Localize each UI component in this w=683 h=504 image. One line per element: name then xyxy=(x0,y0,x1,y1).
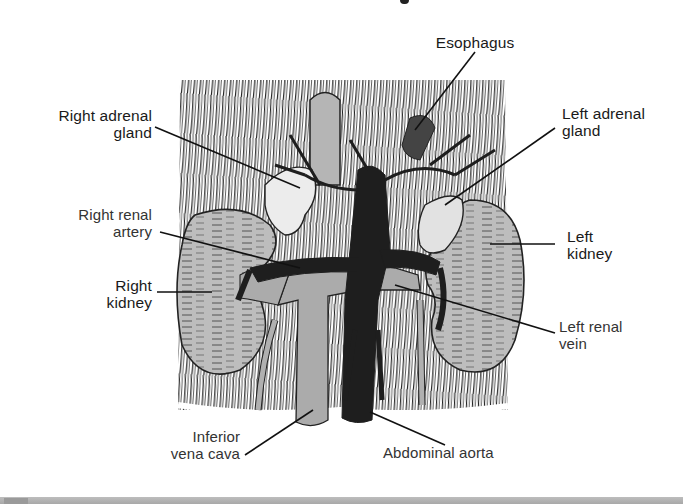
label-right-kidney: Right kidney xyxy=(60,277,152,311)
label-left-adrenal-gland-line2: gland xyxy=(562,122,682,139)
label-left-kidney: Left kidney xyxy=(567,228,647,262)
label-left-renal-vein-line2: vein xyxy=(559,335,669,352)
label-right-renal-artery: Right renal artery xyxy=(40,206,152,240)
label-right-kidney-line1: Right xyxy=(60,277,152,294)
label-abdominal-aorta-line1: Abdominal aorta xyxy=(383,444,533,461)
label-inferior-vena-cava-line2: vena cava xyxy=(140,445,240,462)
label-right-kidney-line2: kidney xyxy=(60,294,152,311)
label-right-adrenal-gland-line2: gland xyxy=(30,124,152,141)
label-right-adrenal-gland: Right adrenal gland xyxy=(30,107,152,141)
label-left-kidney-line2: kidney xyxy=(567,245,647,262)
label-abdominal-aorta: Abdominal aorta xyxy=(383,444,533,461)
bottom-gray-bar xyxy=(0,497,683,504)
leader-inferior-vena-cava xyxy=(245,410,313,455)
label-esophagus-line1: Esophagus xyxy=(425,34,525,51)
anatomy-figure: Esophagus Right adrenal gland Left adren… xyxy=(0,0,683,504)
label-esophagus: Esophagus xyxy=(425,34,525,51)
bottom-bar-tab xyxy=(4,498,28,504)
label-left-renal-vein-line1: Left renal xyxy=(559,318,669,335)
label-inferior-vena-cava: Inferior vena cava xyxy=(140,428,240,462)
label-inferior-vena-cava-line1: Inferior xyxy=(140,428,240,445)
label-left-renal-vein: Left renal vein xyxy=(559,318,669,352)
label-left-kidney-line1: Left xyxy=(567,228,647,245)
label-right-adrenal-gland-line1: Right adrenal xyxy=(30,107,152,124)
leader-abdominal-aorta xyxy=(370,412,445,445)
label-right-renal-artery-line1: Right renal xyxy=(40,206,152,223)
label-left-adrenal-gland: Left adrenal gland xyxy=(562,105,682,139)
label-left-adrenal-gland-line1: Left adrenal xyxy=(562,105,682,122)
label-right-renal-artery-line2: artery xyxy=(40,223,152,240)
